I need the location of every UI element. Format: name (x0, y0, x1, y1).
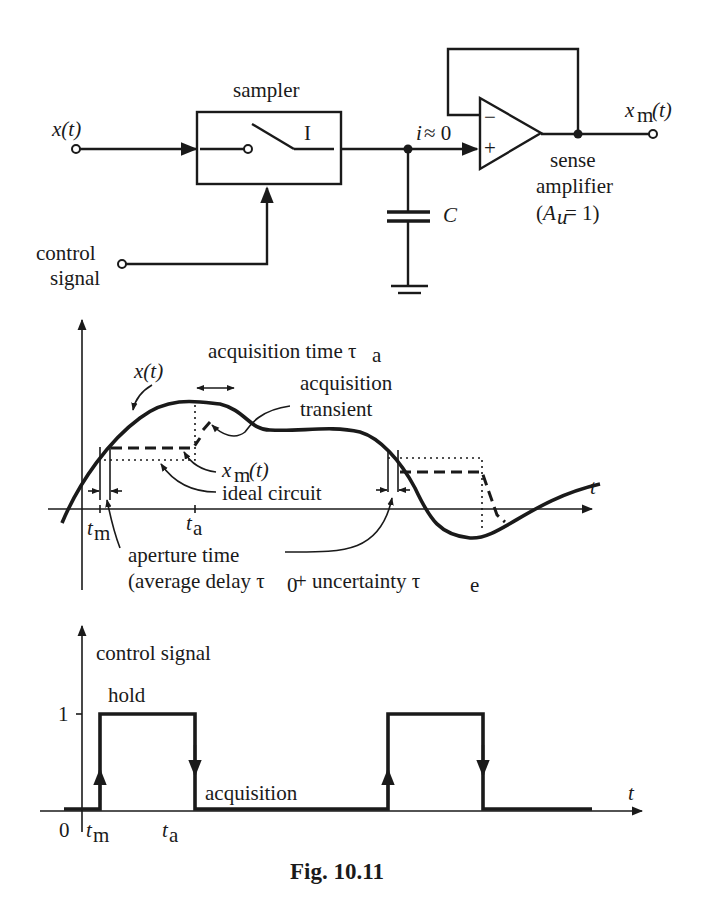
aperture-line2-sub2: e (470, 573, 479, 597)
control-y-label: control signal (96, 641, 211, 665)
sampled-output-dashed-1 (111, 438, 200, 448)
current-label-i: i (416, 121, 422, 145)
acq-time-label: acquisition time τ (208, 339, 356, 363)
control-x-label: t (628, 781, 635, 805)
control-signal-plot: control signal t 1 0 t m t a hold acquis… (40, 626, 642, 847)
xm-label-arg: (t) (249, 458, 269, 482)
tick-ta-label: t (186, 511, 193, 535)
acq-transient-line2: transient (300, 397, 372, 421)
xm-label-leader (184, 452, 216, 472)
x-tick-0-label: 0 (59, 818, 70, 842)
output-label-sub: m (637, 103, 653, 127)
acq-time-sub: a (372, 343, 382, 367)
output-label-arg: (t) (652, 98, 672, 122)
xm-label-x: x (221, 458, 232, 482)
amp-gain-A: A (541, 201, 556, 225)
acquisition-label: acquisition (205, 781, 298, 805)
signal-plot: t t m t a x(t) acquisition time τ a (48, 320, 600, 597)
control-label-line1: control (36, 241, 96, 265)
opamp-minus: − (484, 105, 496, 129)
tick-tm-sub: m (94, 521, 110, 545)
output-terminal (649, 130, 657, 138)
control-wire (126, 188, 267, 264)
control-tm-sub: m (93, 823, 109, 847)
sampler-label: sampler (233, 78, 299, 102)
control-waveform (64, 714, 592, 809)
switch-blade (252, 124, 294, 149)
curve-label: x(t) (133, 359, 163, 383)
output-node (574, 130, 583, 139)
feedback-wire (448, 49, 578, 134)
aperture-line1: aperture time (128, 543, 239, 567)
circuit-schematic: x(t) sampler I control signal i ≈ 0 C (36, 49, 672, 293)
opamp-plus: + (484, 136, 496, 160)
switch-contact (244, 145, 252, 153)
switch-label: I (304, 121, 311, 145)
ideal-label: ideal circuit (222, 481, 322, 505)
amp-gain-rest: = 1) (565, 201, 600, 225)
capacitor-label: C (443, 203, 458, 227)
amp-gain-open: ( (536, 201, 543, 225)
acq-transient-dash (203, 422, 210, 430)
aperture-line2-mid: + uncertainty τ (295, 569, 420, 593)
sampled-output-dashed-2 (400, 472, 505, 522)
amp-label-line1: sense (550, 148, 596, 172)
output-label-x: x (624, 98, 635, 122)
acq-transient-line1: acquisition (300, 371, 393, 395)
current-label: ≈ 0 (424, 121, 451, 145)
input-label: x(t) (51, 117, 81, 141)
control-ta-sub: a (169, 823, 179, 847)
control-terminal (118, 260, 126, 268)
control-tm-label: t (86, 818, 93, 842)
curve-label-leader (133, 385, 152, 410)
tick-tm-label: t (87, 516, 94, 540)
figure-caption: Fig. 10.11 (290, 859, 384, 884)
hold-label: hold (108, 683, 146, 707)
aperture-line2: (average delay τ (128, 569, 265, 593)
ideal-label-leader (161, 464, 216, 492)
sample-hold-figure: x(t) sampler I control signal i ≈ 0 C (0, 0, 702, 912)
control-label-line2: signal (50, 266, 100, 290)
input-terminal (72, 145, 80, 153)
control-ta-label: t (162, 818, 169, 842)
input-signal-curve (62, 401, 600, 538)
tick-ta-sub: a (193, 516, 203, 540)
amp-label-line2: amplifier (536, 174, 613, 198)
y-tick-1-label: 1 (58, 702, 69, 726)
aperture-leader-right (285, 498, 392, 552)
